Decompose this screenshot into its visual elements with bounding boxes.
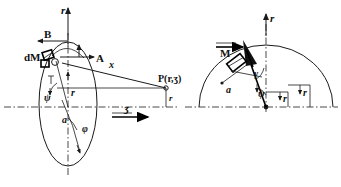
right-psi-label: ψ	[258, 88, 265, 99]
left-semi-axis-a-label: a	[62, 114, 67, 125]
z-axis-label: ʒ	[123, 102, 129, 114]
left-phi-label: φ	[82, 123, 88, 134]
diagram-canvas: r dM B A x r ψ φ a ʒ P(r,ʒ) r	[0, 0, 341, 187]
right-semi-axis-a-label: a	[226, 84, 231, 95]
distance-x-line	[62, 63, 166, 88]
outer-r-label: r	[303, 87, 307, 98]
left-psi-label: ψ	[44, 92, 51, 103]
right-r-axis-label: r	[270, 12, 275, 24]
point-p-radius-label: r	[169, 93, 173, 103]
component-a-label: A	[96, 52, 104, 64]
semi-axis-a-endpoint	[220, 81, 223, 84]
moment-m-label: M	[220, 47, 231, 59]
component-b-label: B	[44, 28, 52, 40]
dm-label: dM	[24, 51, 41, 63]
left-radius-r-label: r	[71, 87, 75, 98]
right-diagram-group: r M γ a ψ r r	[185, 12, 338, 112]
distance-x-label: x	[108, 59, 114, 70]
phi-angle-arc	[68, 118, 77, 130]
point-p-label: P(r,ʒ)	[158, 73, 181, 85]
gamma-tick	[229, 67, 234, 73]
psi-angle-arc	[50, 83, 57, 92]
phi-angle-line	[62, 100, 80, 152]
left-diagram-group: r dM B A x r ψ φ a ʒ P(r,ʒ) r	[4, 4, 181, 176]
technical-diagram-figure: r dM B A x r ψ φ a ʒ P(r,ʒ) r	[0, 0, 341, 187]
inner-r-label: r	[283, 93, 287, 104]
left-r-axis-label: r	[61, 4, 66, 16]
tilted-axis-line	[249, 59, 266, 107]
